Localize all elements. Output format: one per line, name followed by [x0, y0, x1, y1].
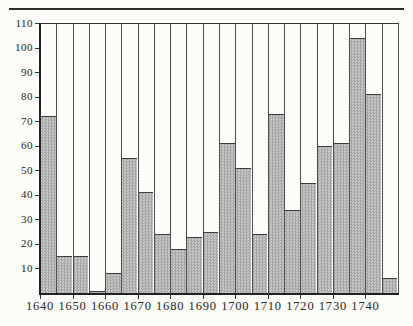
- x-tick-label-1640: 1640: [23, 300, 57, 313]
- gridline-22: [398, 23, 399, 293]
- y-tick-label-50: 50: [8, 165, 33, 176]
- bar-1645: [57, 256, 72, 293]
- gridline-19: [349, 23, 350, 293]
- x-tick-label-1650: 1650: [56, 300, 90, 313]
- bar-1705: [252, 234, 267, 293]
- y-tick-label-20: 20: [8, 238, 33, 249]
- gridline-20: [365, 23, 366, 293]
- figure-page: 1020304050607080901001101640165016601670…: [0, 0, 413, 326]
- gridline-13: [252, 23, 253, 293]
- gridline-11: [219, 23, 220, 293]
- gridline-4: [105, 23, 106, 293]
- y-tick-label-80: 80: [8, 91, 33, 102]
- y-tick-60: [35, 146, 39, 147]
- x-tick-label-1720: 1720: [283, 300, 317, 313]
- x-axis: [39, 293, 399, 295]
- x-tick-label-1740: 1740: [348, 300, 382, 313]
- bar-1715: [285, 210, 300, 293]
- gridline-7: [154, 23, 155, 293]
- y-tick-40: [35, 195, 39, 196]
- y-tick-100: [35, 48, 39, 49]
- y-tick-label-60: 60: [8, 140, 33, 151]
- bar-1720: [301, 183, 316, 293]
- gridline-16: [300, 23, 301, 293]
- bar-1690: [203, 232, 218, 293]
- x-tick-label-1680: 1680: [153, 300, 187, 313]
- bar-1685: [187, 237, 202, 293]
- bar-1670: [138, 192, 153, 293]
- x-tick-label-1700: 1700: [218, 300, 252, 313]
- gridline-21: [382, 23, 383, 293]
- gridline-12: [235, 23, 236, 293]
- gridline-15: [284, 23, 285, 293]
- gridline-6: [138, 23, 139, 293]
- y-tick-label-70: 70: [8, 116, 33, 127]
- y-tick-label-90: 90: [8, 67, 33, 78]
- bar-1680: [171, 249, 186, 293]
- y-tick-10: [35, 268, 39, 269]
- y-tick-80: [35, 97, 39, 98]
- plot-top-border: [40, 23, 398, 24]
- bar-1730: [333, 143, 348, 293]
- bar-1665: [122, 158, 137, 293]
- bar-1710: [268, 114, 283, 293]
- x-tick-label-1710: 1710: [251, 300, 285, 313]
- y-tick-label-40: 40: [8, 189, 33, 200]
- x-tick-label-1660: 1660: [88, 300, 122, 313]
- y-tick-label-100: 100: [8, 42, 33, 53]
- x-tick-label-1670: 1670: [121, 300, 155, 313]
- bar-1675: [154, 234, 169, 293]
- gridline-2: [73, 23, 74, 293]
- bar-1735: [350, 38, 365, 293]
- x-tick-label-1690: 1690: [186, 300, 220, 313]
- gridline-9: [186, 23, 187, 293]
- gridline-14: [268, 23, 269, 293]
- gridline-3: [89, 23, 90, 293]
- y-tick-label-110: 110: [8, 18, 33, 29]
- bar-1740: [366, 94, 381, 293]
- y-axis: [39, 23, 41, 294]
- bar-1650: [73, 256, 88, 293]
- gridline-1: [56, 23, 57, 293]
- bar-1745: [382, 278, 397, 293]
- gridline-10: [203, 23, 204, 293]
- y-tick-label-30: 30: [8, 214, 33, 225]
- y-tick-20: [35, 244, 39, 245]
- y-tick-50: [35, 170, 39, 171]
- bar-1640: [41, 116, 56, 293]
- bar-1700: [236, 168, 251, 293]
- gridline-18: [333, 23, 334, 293]
- y-tick-110: [35, 23, 39, 24]
- y-tick-90: [35, 72, 39, 73]
- gridline-8: [170, 23, 171, 293]
- gridline-5: [121, 23, 122, 293]
- y-tick-label-10: 10: [8, 263, 33, 274]
- bar-1695: [220, 143, 235, 293]
- y-tick-30: [35, 219, 39, 220]
- gridline-17: [317, 23, 318, 293]
- y-tick-70: [35, 121, 39, 122]
- x-tick-label-1730: 1730: [316, 300, 350, 313]
- bar-1725: [317, 146, 332, 293]
- bar-chart-plot-area: 1020304050607080901001101640165016601670…: [0, 0, 413, 326]
- bar-1660: [106, 273, 121, 293]
